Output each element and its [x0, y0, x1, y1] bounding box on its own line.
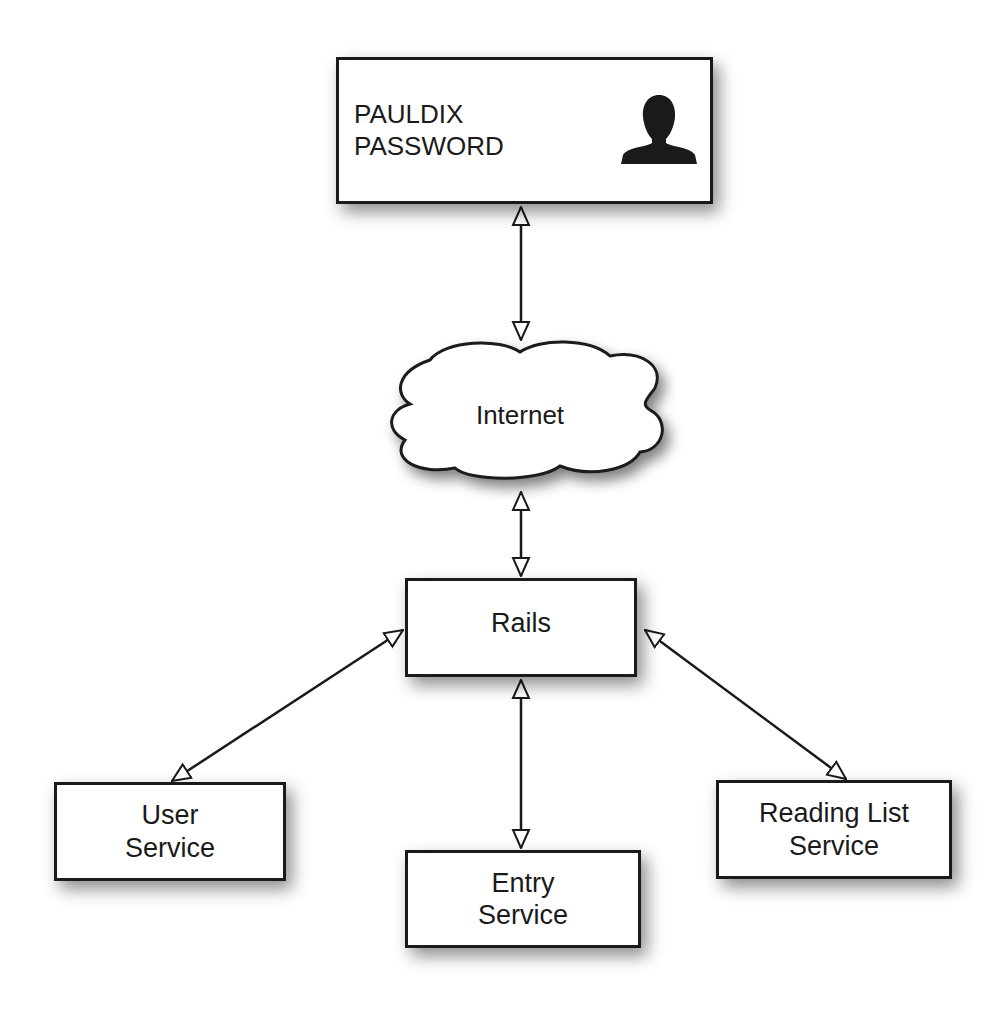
- edge-rails-reading: [645, 630, 846, 779]
- user-service-box: User Service: [54, 782, 286, 881]
- login-password: PASSWORD: [354, 131, 504, 162]
- reading-list-line-2: Service: [759, 830, 909, 862]
- user-service-line-1: User: [125, 799, 215, 831]
- entry-service-box: Entry Service: [405, 850, 641, 948]
- user-service-line-2: Service: [125, 832, 215, 864]
- person-silhouette-icon: [620, 93, 698, 165]
- edge-rails-user: [172, 630, 403, 781]
- entry-service-line-2: Service: [478, 899, 568, 931]
- entry-service-line-1: Entry: [478, 867, 568, 899]
- reading-list-line-1: Reading List: [759, 797, 909, 829]
- reading-list-service-box: Reading List Service: [716, 780, 952, 879]
- internet-label: Internet: [420, 400, 620, 431]
- rails-label: Rails: [491, 607, 551, 639]
- login-username: PAULDIX: [354, 99, 504, 130]
- rails-box: Rails: [405, 578, 637, 677]
